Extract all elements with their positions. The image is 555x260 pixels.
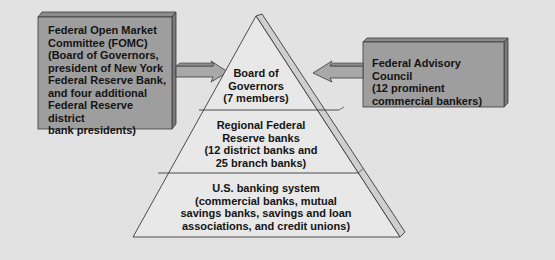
tier-board-of-governors-label: Board of Governors (7 members): [206, 67, 306, 105]
tier-regional-banks-label: Regional Federal Reserve banks (12 distr…: [186, 119, 336, 169]
arrow-left-icon: [313, 61, 363, 82]
advisory-label: Federal Advisory Council (12 prominent c…: [372, 57, 502, 107]
federal-reserve-structure-diagram: Federal Open Market Committee (FOMC) (Bo…: [0, 0, 555, 260]
tier-us-banking-system-label: U.S. banking system (commercial banks, m…: [166, 182, 366, 232]
fomc-label: Federal Open Market Committee (FOMC) (Bo…: [48, 24, 172, 137]
